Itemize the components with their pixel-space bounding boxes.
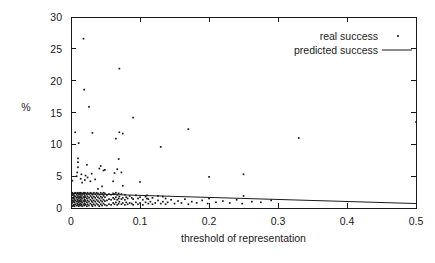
data-point	[127, 198, 129, 200]
data-point	[85, 175, 87, 177]
data-point	[106, 205, 108, 207]
data-point	[115, 138, 117, 140]
data-point	[115, 196, 117, 198]
data-point	[74, 131, 76, 133]
data-point	[86, 198, 88, 200]
data-point	[78, 142, 80, 144]
data-point	[92, 205, 94, 207]
data-point	[86, 201, 88, 203]
data-point	[76, 175, 78, 177]
data-point	[181, 202, 183, 204]
data-point	[90, 180, 92, 182]
data-point	[88, 197, 90, 199]
data-point	[150, 201, 152, 203]
data-point	[98, 205, 100, 207]
data-point	[86, 205, 88, 207]
data-point	[114, 203, 116, 205]
data-point	[170, 199, 172, 201]
data-point	[127, 203, 129, 205]
data-point	[77, 166, 79, 168]
data-point	[165, 203, 167, 205]
data-point	[160, 146, 162, 148]
data-point	[97, 188, 99, 190]
data-point	[119, 196, 121, 198]
data-point	[152, 197, 154, 199]
data-point	[112, 180, 114, 182]
data-point	[270, 200, 272, 202]
data-point	[208, 176, 210, 178]
data-point	[118, 158, 120, 160]
data-point	[188, 203, 190, 205]
data-point	[147, 203, 149, 205]
data-point	[125, 201, 127, 203]
data-point	[122, 202, 124, 204]
y-tick-label: 0	[56, 202, 62, 214]
data-point	[124, 199, 126, 201]
data-point	[160, 203, 162, 205]
data-point	[142, 199, 144, 201]
data-point	[124, 204, 126, 206]
y-tick-label: 5	[56, 170, 62, 182]
data-point	[101, 201, 103, 203]
data-point	[94, 205, 96, 207]
data-point	[243, 173, 245, 175]
data-point	[119, 131, 121, 133]
data-point	[88, 201, 90, 203]
y-tick-label: 20	[50, 75, 62, 87]
data-point	[77, 158, 79, 160]
data-point	[137, 198, 139, 200]
x-tick-label: 0.1	[133, 215, 148, 227]
x-tick-label: 0	[68, 215, 74, 227]
x-tick-label: 0.4	[340, 215, 355, 227]
data-point	[118, 193, 120, 195]
data-point	[98, 198, 100, 200]
data-point	[118, 203, 120, 205]
legend-label: predicted success	[294, 44, 378, 56]
data-point	[122, 197, 124, 199]
data-point	[119, 68, 121, 70]
data-point	[207, 203, 209, 205]
legend-label: real success	[320, 30, 378, 42]
x-axis-title: threshold of representation	[181, 232, 306, 244]
x-tick-label: 0.3	[271, 215, 286, 227]
y-tick-label: 30	[50, 11, 62, 23]
data-point	[139, 196, 141, 198]
data-point	[104, 169, 106, 171]
data-point	[81, 201, 83, 203]
y-tick-label: 25	[50, 43, 62, 55]
data-point	[142, 204, 144, 206]
data-point	[132, 117, 134, 119]
data-point	[108, 203, 110, 205]
data-point	[81, 173, 83, 175]
data-point	[177, 200, 179, 202]
data-point	[201, 200, 203, 202]
data-point	[115, 201, 117, 203]
data-point	[94, 179, 96, 181]
data-point	[241, 203, 243, 205]
data-point	[154, 202, 156, 204]
data-point	[100, 165, 102, 167]
data-point	[92, 132, 94, 134]
data-point	[191, 201, 193, 203]
data-point	[88, 205, 90, 207]
data-point	[84, 179, 86, 181]
data-point	[98, 168, 100, 170]
data-point	[81, 198, 83, 200]
data-point	[129, 202, 131, 204]
data-point	[104, 204, 106, 206]
data-point	[152, 203, 154, 205]
data-point	[104, 196, 106, 198]
data-point	[92, 201, 94, 203]
data-point	[72, 180, 74, 182]
data-point	[122, 133, 124, 135]
y-axis-title: %	[21, 101, 30, 113]
data-point	[81, 182, 83, 184]
data-point	[298, 137, 300, 139]
data-point	[122, 185, 124, 187]
data-point	[139, 181, 141, 183]
data-point	[167, 201, 169, 203]
data-point	[98, 201, 100, 203]
data-point	[215, 201, 217, 203]
scatter-series-real-success	[72, 38, 417, 207]
data-point	[110, 199, 112, 201]
